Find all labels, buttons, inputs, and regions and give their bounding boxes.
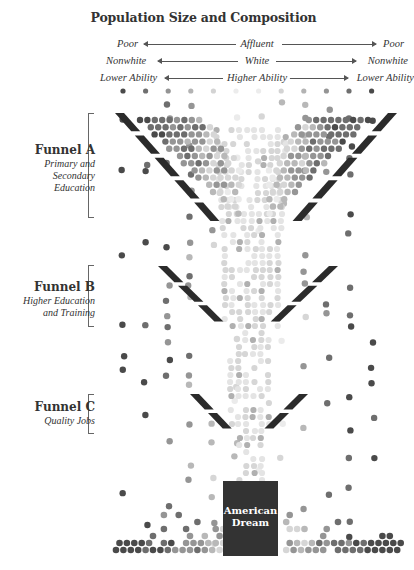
funnel-b-label: Funnel B Higher Education and Training (23, 280, 95, 319)
funnel-a-name: Funnel A (35, 143, 95, 158)
funnel-b-name: Funnel B (23, 280, 95, 295)
funnel-a-desc-2: Secondary (35, 170, 95, 182)
funnel-c-desc-1: Quality Jobs (35, 415, 95, 427)
funnel-b-desc-1: Higher Education (23, 295, 95, 307)
funnel-c-label: Funnel C Quality Jobs (35, 400, 95, 427)
funnel-b-desc-2: and Training (23, 307, 95, 319)
funnel-c-name: Funnel C (35, 400, 95, 415)
funnel-a-desc-1: Primary and (35, 158, 95, 170)
dream-line2: Dream (223, 517, 278, 529)
funnel-a-label: Funnel A Primary and Secondary Education (35, 143, 95, 194)
american-dream-label: American Dream (223, 505, 278, 529)
funnel-a-desc-3: Education (35, 182, 95, 194)
dream-line1: American (223, 505, 278, 517)
